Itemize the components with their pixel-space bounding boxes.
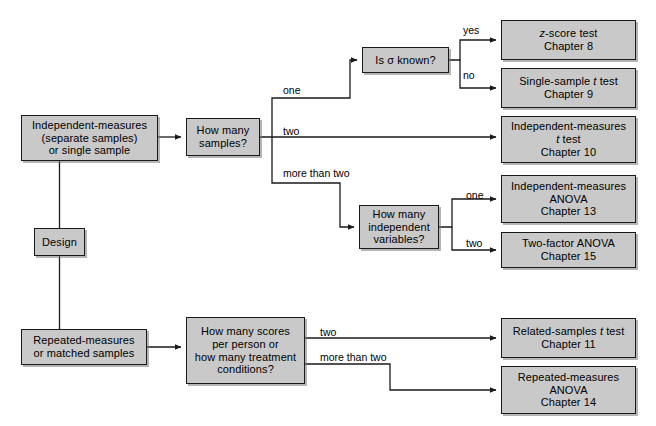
edge-sigma-to-yes xyxy=(449,40,496,60)
single-sample-t-test-node-label: Single-sample t testChapter 9 xyxy=(519,75,618,101)
edge-iv-to-one xyxy=(439,199,496,227)
independent-measures-anova-node: Independent-measuresANOVAChapter 13 xyxy=(501,175,636,223)
is-sigma-known-node: Is σ known? xyxy=(362,47,449,73)
two-factor-anova-node: Two-factor ANOVAChapter 15 xyxy=(501,232,636,268)
how-many-samples-node: How manysamples? xyxy=(186,118,260,156)
edge-label-no: no xyxy=(463,70,475,81)
repeated-measures-anova-node: Repeated-measuresANOVAChapter 14 xyxy=(501,366,636,414)
edge-label-rm-more-than-two: more than two xyxy=(320,352,387,363)
design-node-label: Design xyxy=(42,236,77,249)
independent-measures-t-test-node: Independent-measurest testChapter 10 xyxy=(501,116,636,163)
repeated-measures-node-label: Repeated-measuresor matched samples xyxy=(33,334,134,360)
edge-label-iv-two: two xyxy=(466,238,482,249)
edge-label-two: two xyxy=(283,126,299,137)
z-score-test-node-label: z-score testChapter 8 xyxy=(539,27,597,53)
how-many-independent-variables-node: How manyindependentvariables? xyxy=(359,205,439,249)
edge-label-more-than-two: more than two xyxy=(283,168,350,179)
how-many-independent-variables-node-label: How manyindependentvariables? xyxy=(368,208,430,246)
edge-label-rm-two: two xyxy=(320,327,336,338)
z-score-test-node: z-score testChapter 8 xyxy=(501,20,636,60)
independent-measures-node-label: Independent-measures(separate samples)or… xyxy=(32,119,147,157)
is-sigma-known-node-label: Is σ known? xyxy=(375,54,435,67)
related-samples-t-test-node-label: Related-samples t testChapter 11 xyxy=(513,325,625,351)
edge-samples-to-more-than-two xyxy=(272,137,354,227)
edge-label-yes: yes xyxy=(463,25,479,36)
edge-samples-to-one xyxy=(260,60,357,137)
independent-measures-anova-node-label: Independent-measuresANOVAChapter 13 xyxy=(511,180,626,218)
edge-label-iv-one: one xyxy=(466,190,484,201)
repeated-measures-anova-node-label: Repeated-measuresANOVAChapter 14 xyxy=(518,371,619,409)
single-sample-t-test-node: Single-sample t testChapter 9 xyxy=(501,68,636,108)
how-many-scores-node-label: How many scoresper person orhow many tre… xyxy=(195,325,296,376)
how-many-scores-node: How many scoresper person orhow many tre… xyxy=(186,317,305,384)
edge-scores-to-more-than-two xyxy=(305,364,496,390)
related-samples-t-test-node: Related-samples t testChapter 11 xyxy=(501,318,636,358)
how-many-samples-node-label: How manysamples? xyxy=(197,124,250,150)
edge-label-one: one xyxy=(283,85,301,96)
design-node: Design xyxy=(34,228,85,256)
repeated-measures-node: Repeated-measuresor matched samples xyxy=(21,329,147,365)
two-factor-anova-node-label: Two-factor ANOVAChapter 15 xyxy=(522,237,615,263)
independent-measures-t-test-node-label: Independent-measurest testChapter 10 xyxy=(511,120,626,158)
flowchart-canvas: DesignIndependent-measures(separate samp… xyxy=(0,0,656,426)
independent-measures-node: Independent-measures(separate samples)or… xyxy=(21,115,158,161)
